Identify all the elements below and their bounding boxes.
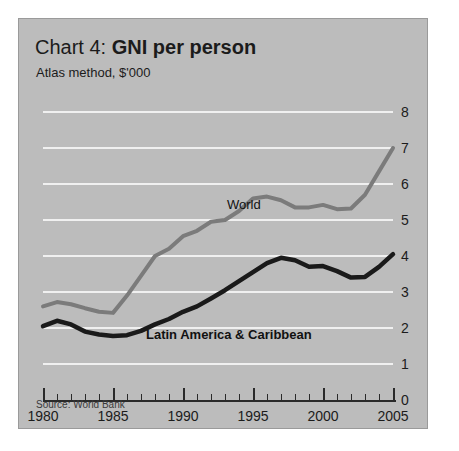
- y-axis-tick-label: 8: [401, 104, 409, 120]
- x-axis-tick-minor: [281, 394, 282, 401]
- y-axis-tick-label: 2: [401, 320, 409, 336]
- y-axis-tick-label: 3: [401, 284, 409, 300]
- x-axis-tick-minor: [239, 394, 240, 401]
- chart-title-main: GNI per person: [112, 36, 256, 58]
- line-latin-america-caribbean: [43, 254, 393, 336]
- x-axis-tick-major: [393, 388, 395, 401]
- x-axis-tick-major: [183, 388, 185, 401]
- x-axis-tick-minor: [309, 394, 310, 401]
- x-axis-tick-minor: [169, 394, 170, 401]
- y-axis-tick-label: 4: [401, 248, 409, 264]
- x-axis-tick-label: 2000: [307, 408, 338, 424]
- x-axis-tick-label: 1985: [97, 408, 128, 424]
- x-axis-tick-minor: [379, 394, 380, 401]
- x-axis-tick-minor: [155, 394, 156, 401]
- x-axis-tick-label: 1980: [27, 408, 58, 424]
- x-axis-tick-minor: [365, 394, 366, 401]
- series-lines: [43, 112, 393, 400]
- x-axis-tick-minor: [211, 394, 212, 401]
- chart-title: Chart 4: GNI per person: [35, 36, 256, 59]
- line-world: [43, 148, 393, 313]
- x-axis-tick-label: 1995: [237, 408, 268, 424]
- chart-subtitle: Atlas method, $'000: [36, 65, 151, 80]
- series-label-latin-america: Latin America & Caribbean: [146, 327, 312, 342]
- y-axis-tick-label: 7: [401, 140, 409, 156]
- x-axis-tick-major: [253, 388, 255, 401]
- x-axis-tick-minor: [295, 394, 296, 401]
- x-axis-tick-label: 2005: [377, 408, 408, 424]
- x-axis-tick-minor: [267, 394, 268, 401]
- series-label-world: World: [227, 197, 261, 212]
- x-axis-tick-minor: [127, 394, 128, 401]
- x-axis-tick-minor: [141, 394, 142, 401]
- x-axis-tick-label: 1990: [167, 408, 198, 424]
- chart-title-prefix: Chart 4:: [35, 36, 112, 58]
- x-axis-tick-minor: [351, 394, 352, 401]
- chart-panel: Chart 4: GNI per person Atlas method, $'…: [18, 18, 428, 429]
- y-axis-tick-label: 5: [401, 212, 409, 228]
- plot-area: 12345678 198019851990199520002005 0: [43, 112, 393, 400]
- y-axis-tick-label: 1: [401, 356, 409, 372]
- y-axis-tick-label: 6: [401, 176, 409, 192]
- y-axis-label-zero: 0: [401, 392, 409, 408]
- source-note: Source: World Bank: [36, 399, 125, 410]
- x-axis-tick-minor: [225, 394, 226, 401]
- x-axis-tick-major: [323, 388, 325, 401]
- x-axis-tick-minor: [337, 394, 338, 401]
- x-axis-tick-minor: [197, 394, 198, 401]
